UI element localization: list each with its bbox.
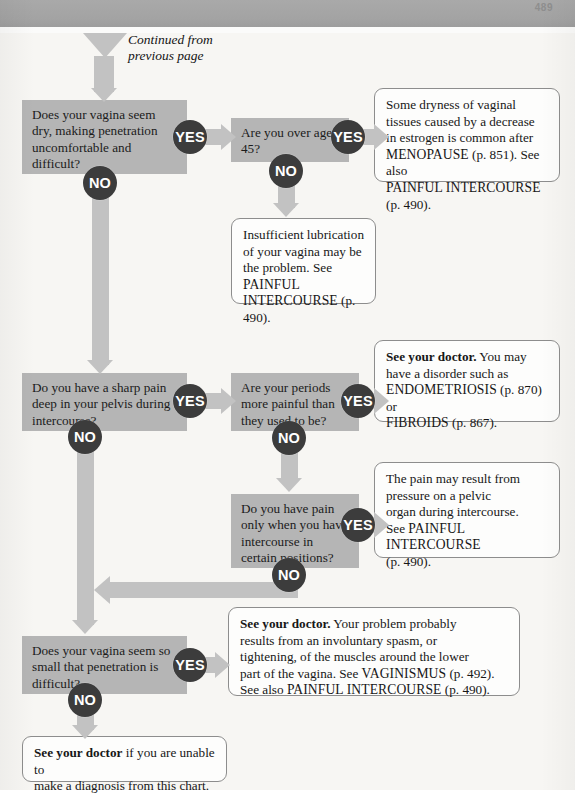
answer-pelvic-line2: pressure on a pelvic	[386, 488, 549, 505]
no-label: NO	[278, 430, 300, 446]
yes-label: YES	[175, 657, 205, 673]
yes-badge-q2[interactable]: YES	[331, 120, 365, 154]
continued-from-previous-page-note: Continued from previous page	[128, 32, 213, 64]
continued-note-line1: Continued from	[128, 32, 213, 48]
answer-final-line1: See your doctor if you are unable to	[34, 745, 216, 778]
answer-lubrication-see: the problem. See	[243, 260, 332, 275]
crossref-fibroids-page: (p. 867).	[452, 415, 497, 430]
answer-lubrication-line1: Insufficient lubrication	[243, 227, 365, 244]
crossref-painful[interactable]: PAINFUL	[243, 277, 300, 292]
answer-menopause-line4: MENOPAUSE (p. 851). See also	[386, 147, 549, 180]
question-text-dryness: Does your vagina seem dry, making penetr…	[32, 107, 158, 171]
see-your-doctor-label: See your doctor.	[240, 616, 330, 631]
page-header-band	[0, 0, 575, 27]
continued-note-line2: previous page	[128, 48, 213, 64]
answer-vaginismus-line2: results from an involuntary spasm, or	[240, 633, 509, 650]
no-badge-q2[interactable]: NO	[269, 154, 303, 188]
answer-endometriosis-text1: You may	[479, 349, 526, 364]
entry-connector-line	[94, 56, 114, 92]
answer-box-menopause: Some dryness of vaginal tissues caused b…	[374, 88, 560, 182]
answer-endometriosis-line4: FIBROIDS (p. 867).	[386, 415, 549, 432]
edge-q2-yes-arrowhead-icon	[374, 124, 389, 150]
answer-menopause-line3: in estrogen is common after	[386, 130, 549, 147]
answer-box-final-see-doctor: See your doctor if you are unable to mak…	[22, 736, 227, 782]
edge-q1-yes-arrowhead-icon	[221, 124, 236, 150]
crossref-painful-intercourse[interactable]: PAINFUL INTERCOURSE	[287, 682, 442, 697]
question-box-sharp-pain[interactable]: Do you have a sharp pain deep in your pe…	[22, 373, 187, 431]
answer-endometriosis-line2: have a disorder such as	[386, 366, 549, 383]
answer-endometriosis-line3: ENDOMETRIOSIS (p. 870) or	[386, 382, 549, 415]
answer-pelvic-line5: (p. 490).	[386, 554, 549, 571]
no-label: NO	[74, 692, 96, 708]
edge-q6-no-arrowhead-icon	[72, 725, 98, 739]
edge-q5-yes-arrowhead-icon	[374, 512, 389, 538]
see-your-doctor-label: See your doctor.	[386, 349, 476, 364]
yes-label: YES	[175, 393, 205, 409]
answer-menopause-line2: tissues caused by a decrease	[386, 114, 549, 131]
no-badge-q3[interactable]: NO	[68, 420, 102, 454]
no-badge-q6[interactable]: NO	[68, 683, 102, 717]
answer-final-line2: make a diagnosis from this chart.	[34, 778, 216, 795]
yes-badge-q5[interactable]: YES	[341, 508, 375, 542]
answer-endometriosis-line1: See your doctor. You may	[386, 349, 549, 366]
answer-vaginismus-text4: part of the vagina. See	[240, 666, 358, 681]
answer-vaginismus-line3: tightening, of the muscles around the lo…	[240, 649, 509, 666]
edge-q3-no-line	[77, 444, 94, 625]
edge-q4-yes-arrowhead-icon	[374, 388, 389, 414]
answer-box-pelvic-organ: The pain may result from pressure on a p…	[374, 462, 560, 558]
answer-pelvic-line1: The pain may result from	[386, 471, 549, 488]
no-label: NO	[89, 175, 111, 191]
yes-badge-q4[interactable]: YES	[341, 384, 375, 418]
question-box-vagina-small[interactable]: Does your vagina seem so small that pene…	[22, 636, 187, 694]
answer-vaginismus-line1: See your doctor. Your problem probably	[240, 616, 509, 633]
yes-badge-q6[interactable]: YES	[173, 648, 207, 682]
yes-label: YES	[343, 393, 373, 409]
answer-vaginismus-seealso: See also	[240, 682, 284, 697]
edge-q4-no-arrowhead-icon	[276, 478, 302, 492]
edge-q5-no-line-horizontal	[110, 582, 298, 598]
crossref-menopause-page: (p. 851).	[472, 147, 517, 162]
answer-vaginismus-text1: Your problem probably	[333, 616, 456, 631]
crossref-vaginismus[interactable]: VAGINISMUS	[362, 666, 447, 681]
answer-vaginismus-line4: part of the vagina. See VAGINISMUS (p. 4…	[240, 666, 509, 683]
answer-lubrication-line3: the problem. See PAINFUL	[243, 260, 365, 293]
see-your-doctor-label: See your doctor	[34, 745, 122, 760]
answer-menopause-line5: PAINFUL INTERCOURSE (p. 490).	[386, 180, 549, 213]
crossref-painful-intercourse[interactable]: PAINFUL INTERCOURSE	[386, 180, 541, 195]
question-text-age45: Are you over age 45?	[241, 125, 332, 156]
answer-lubrication-line2: of your vagina may be	[243, 244, 365, 261]
edge-q1-no-arrowhead-icon	[87, 360, 113, 374]
question-box-dryness[interactable]: Does your vagina seem dry, making penetr…	[22, 100, 187, 174]
yes-badge-q1[interactable]: YES	[173, 120, 207, 154]
continued-entry-arrow-icon	[83, 33, 127, 58]
edge-q1-no-line	[92, 190, 109, 365]
crossref-fibroids[interactable]: FIBROIDS	[386, 415, 449, 430]
crossref-painful-intercourse-page: (p. 490).	[445, 682, 490, 697]
yes-badge-q3[interactable]: YES	[173, 384, 207, 418]
answer-vaginismus-line5: See also PAINFUL INTERCOURSE (p. 490).	[240, 682, 509, 699]
no-badge-q1[interactable]: NO	[83, 166, 117, 200]
crossref-menopause[interactable]: MENOPAUSE	[386, 147, 469, 162]
answer-lubrication-line4: INTERCOURSE (p. 490).	[243, 293, 365, 326]
yes-label: YES	[343, 517, 373, 533]
crossref-endometriosis[interactable]: ENDOMETRIOSIS	[386, 382, 497, 397]
answer-pelvic-line4: See PAINFUL INTERCOURSE	[386, 521, 549, 554]
edge-q3-no-arrowhead-icon	[72, 620, 98, 634]
question-text-vagina-small: Does your vagina seem so small that pene…	[32, 643, 170, 691]
answer-pelvic-line3: organ during intercourse.	[386, 504, 549, 521]
question-box-certain-positions[interactable]: Do you have pain only when you have inte…	[231, 494, 359, 568]
answer-box-vaginismus: See your doctor. Your problem probably r…	[228, 607, 520, 696]
question-text-sharp-pain: Do you have a sharp pain deep in your pe…	[32, 380, 170, 428]
crossref-vaginismus-page: (p. 492).	[449, 666, 494, 681]
no-label: NO	[275, 163, 297, 179]
no-badge-q5[interactable]: NO	[272, 558, 306, 592]
no-badge-q4[interactable]: NO	[272, 421, 306, 455]
edge-q3-yes-arrowhead-icon	[221, 388, 236, 414]
edge-q6-yes-arrowhead-icon	[215, 652, 230, 678]
no-label: NO	[74, 429, 96, 445]
crossref-intercourse[interactable]: INTERCOURSE	[243, 293, 338, 308]
entry-arrowhead-icon	[91, 88, 117, 102]
no-label: NO	[278, 567, 300, 583]
merge-arrowhead-icon	[94, 576, 110, 604]
